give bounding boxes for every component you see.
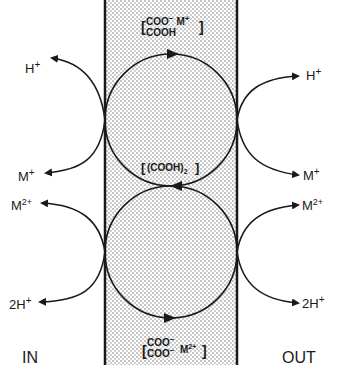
svg-text:]: ] — [199, 19, 204, 35]
svg-text:[: [ — [141, 160, 146, 175]
right-upper-arc-h — [237, 76, 298, 120]
right-lower-arc-m2 — [237, 205, 298, 252]
left-lower-m2-label: M2+ — [11, 197, 32, 213]
right-upper-arc-m — [237, 120, 298, 175]
left-lower-2h-label: 2H+ — [9, 295, 32, 312]
left-upper-arc-m — [46, 120, 105, 173]
left-lower-arc-m2 — [42, 203, 105, 252]
right-upper-m-label: M+ — [303, 166, 320, 183]
svg-text:COO−M+: COO−M+ — [146, 14, 190, 27]
svg-text:]: ] — [195, 160, 199, 175]
right-lower-2h-label: 2H+ — [302, 294, 325, 311]
svg-text:COOH: COOH — [146, 27, 176, 38]
left-lower-arc-2h — [40, 252, 105, 302]
out-side-label: OUT — [282, 349, 316, 366]
left-upper-arc-h — [52, 58, 105, 120]
right-lower-arc-2h — [237, 252, 298, 303]
right-lower-m2-label: M2+ — [302, 197, 323, 213]
svg-text:]: ] — [202, 343, 207, 359]
left-upper-m-label: M+ — [18, 167, 35, 184]
right-upper-h-label: H+ — [306, 66, 321, 83]
transport-diagram: [ COO−M+ COOH ] [ (COOH)2 ] [ COO− COO− … — [0, 0, 343, 377]
left-upper-h-label: H+ — [25, 59, 40, 76]
in-side-label: IN — [22, 349, 38, 366]
